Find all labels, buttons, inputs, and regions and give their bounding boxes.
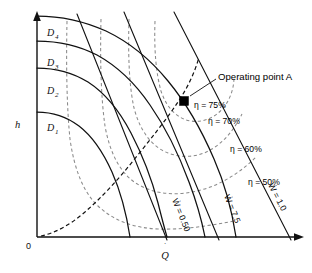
operating-point-marker[interactable]: [180, 97, 189, 106]
operating-point-leader-line: [190, 79, 216, 96]
iso-power-line-75: [124, 12, 219, 240]
pump-performance-chart: h 0 ˙ Q D 4 D 3 D 2 D 1 Operating point …: [0, 0, 312, 273]
x-axis-label: Q: [161, 250, 169, 261]
head-curve-label-D2-base: D: [46, 85, 55, 96]
iso-power-line-050: [77, 14, 167, 240]
head-curves-group: [37, 16, 236, 237]
efficiency-label-60: η = 60%: [230, 144, 262, 154]
head-curve-label-D2-sub: 2: [55, 91, 59, 99]
x-axis-label-group: ˙ Q: [161, 242, 169, 261]
chart-canvas: h 0 ˙ Q D 4 D 3 D 2 D 1 Operating point …: [0, 0, 312, 273]
head-curve-label-D1-base: D: [46, 122, 55, 133]
head-curve-label-D2: D 2: [46, 85, 59, 99]
iso-efficiency-curve-60: [101, 19, 256, 194]
iso-efficiency-curve-70: [129, 19, 242, 156]
power-label-75: Ẇ = 7.5: [222, 193, 243, 225]
head-curve-label-D4-sub: 4: [55, 33, 59, 41]
head-curve-label-D1: D 1: [46, 122, 59, 136]
head-curve-D4: [37, 16, 236, 237]
head-curve-label-D1-sub: 1: [55, 128, 59, 136]
head-curve-label-D3-sub: 3: [54, 63, 59, 71]
origin-label: 0: [26, 241, 31, 251]
head-curve-label-D3-base: D: [46, 57, 55, 68]
head-curve-label-D4-base: D: [46, 27, 55, 38]
operating-point-label: Operating point A: [218, 71, 293, 82]
x-axis-arrowhead: [294, 233, 304, 241]
efficiency-label-70: η = 70%: [208, 116, 240, 126]
y-axis-label: h: [15, 119, 20, 130]
power-label-10: Ẇ = 1.0: [266, 181, 289, 212]
head-curve-label-D4: D 4: [46, 27, 59, 41]
power-label-050: Ẇ = 0.50: [170, 197, 192, 233]
efficiency-label-75: η = 75%: [194, 100, 226, 110]
